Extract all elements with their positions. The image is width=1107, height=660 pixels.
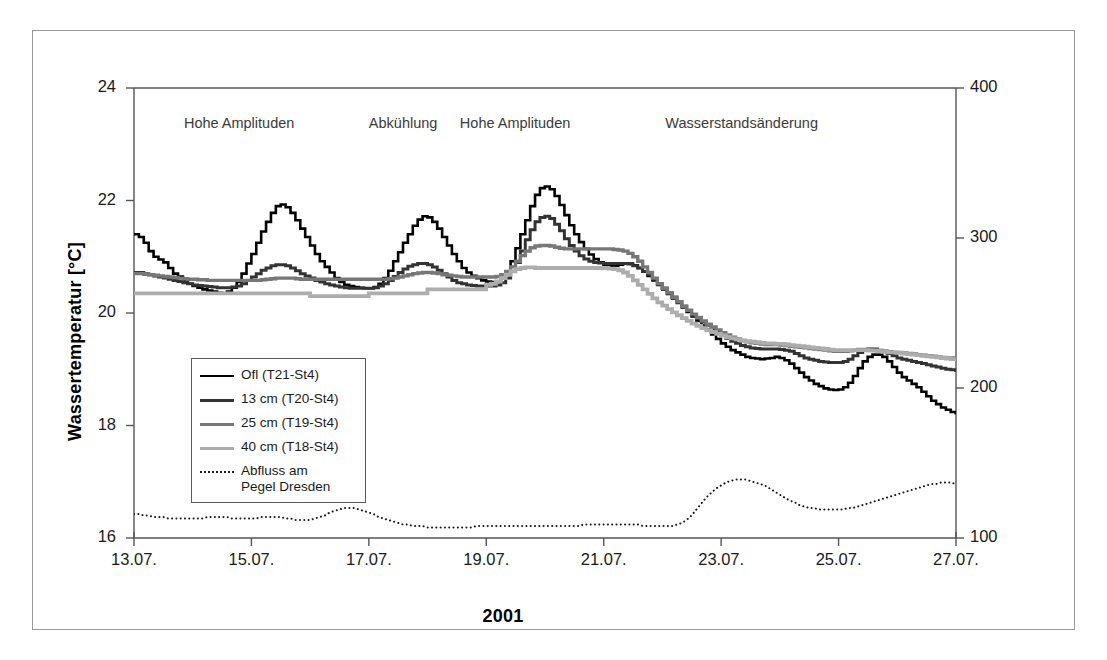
legend-line-swatch-icon: [200, 367, 234, 385]
legend-items: Ofl (T21-St4)13 cm (T20-St4)25 cm (T19-S…: [192, 367, 365, 499]
legend-item-1: Ofl (T21-St4): [192, 367, 365, 391]
y-tick-label-left: 16: [56, 527, 116, 546]
series-line-4: [134, 267, 1074, 360]
x-tick-label: 21.07.: [559, 550, 649, 569]
y-tick-label-left: 22: [56, 190, 116, 209]
legend-item-label: Abfluss amPegel Dresden: [241, 463, 330, 495]
x-tick-label: 23.07.: [676, 550, 766, 569]
y-tick-label-right: 100: [970, 527, 1030, 546]
legend-item-label: Ofl (T21-St4): [241, 367, 319, 382]
figure-root: Wassertemperatur [°C] Abfluss [m³/s] 200…: [0, 0, 1107, 660]
chart-annotation-1: Hohe Amplituden: [184, 115, 294, 131]
y-axis-left-title: Wassertemperatur [°C]: [65, 182, 86, 502]
x-tick-label: 15.07.: [206, 550, 296, 569]
x-tick-label: 19.07.: [441, 550, 531, 569]
y-tick-label-right: 300: [970, 227, 1030, 246]
legend-item-5: Abfluss amPegel Dresden: [192, 463, 365, 499]
y-tick-label-right: 200: [970, 377, 1030, 396]
figure-border: Wassertemperatur [°C] Abfluss [m³/s] 200…: [32, 30, 1075, 630]
legend-item-label: 13 cm (T20-St4): [241, 391, 339, 406]
legend-item-3: 25 cm (T19-St4): [192, 415, 365, 439]
legend-line-swatch-icon: [200, 439, 234, 457]
x-axis-title: 2001: [413, 606, 593, 627]
chart-annotation-4: Wasserstandsänderung: [665, 115, 818, 131]
x-tick-label: 27.07.: [911, 550, 1001, 569]
y-tick-label-right: 400: [970, 77, 1030, 96]
legend-item-4: 40 cm (T18-St4): [192, 439, 365, 463]
x-tick-label: 13.07.: [89, 550, 179, 569]
chart-legend: Ofl (T21-St4)13 cm (T20-St4)25 cm (T19-S…: [191, 358, 366, 503]
y-tick-label-left: 20: [56, 302, 116, 321]
y-tick-label-left: 24: [56, 77, 116, 96]
legend-line-swatch-icon: [200, 463, 234, 481]
chart-annotation-3: Hohe Amplituden: [460, 115, 570, 131]
legend-line-swatch-icon: [200, 391, 234, 409]
legend-item-label: 40 cm (T18-St4): [241, 439, 339, 454]
legend-item-label: 25 cm (T19-St4): [241, 415, 339, 430]
chart-annotation-2: Abkühlung: [369, 115, 438, 131]
legend-line-swatch-icon: [200, 415, 234, 433]
x-tick-label: 17.07.: [324, 550, 414, 569]
x-tick-label: 25.07.: [794, 550, 884, 569]
y-tick-label-left: 18: [56, 415, 116, 434]
legend-item-2: 13 cm (T20-St4): [192, 391, 365, 415]
